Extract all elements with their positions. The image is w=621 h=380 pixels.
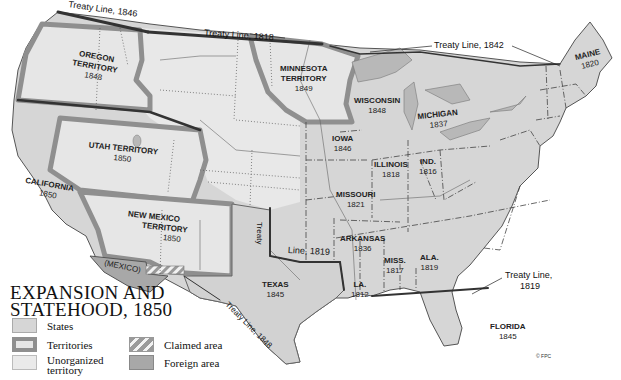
states-legend-label: States [47, 320, 73, 332]
states-swatch [12, 318, 37, 333]
arkansas-year: 1836 [340, 244, 385, 254]
wisconsin-name: WISCONSIN [354, 96, 400, 106]
label-mississippi: MISS. 1817 [384, 256, 406, 276]
label-minnesota-territory: MINNESOTA TERRITORY 1849 [280, 64, 327, 94]
ala-name: ALA. [420, 253, 439, 263]
territories-legend-label: Territories [47, 339, 93, 351]
texas-year: 1845 [262, 290, 289, 300]
label-wisconsin: WISCONSIN 1848 [354, 96, 400, 116]
ind-name: IND. [419, 157, 437, 167]
illinois-year: 1818 [374, 170, 408, 180]
miss-year: 1817 [384, 266, 406, 276]
foreign-swatch [129, 355, 154, 370]
label-iowa: IOWA 1846 [332, 134, 353, 154]
title-line-2: STATEHOOD, 1850 [10, 301, 172, 318]
wisconsin-year: 1848 [354, 106, 400, 116]
treaty-label-1842: Treaty Line, 1842 [434, 40, 504, 50]
unorganized-line2: territory [47, 364, 83, 376]
label-alabama: ALA. 1819 [420, 253, 439, 273]
label-louisiana: LA. 1812 [351, 280, 369, 300]
texas-name: TEXAS [262, 280, 289, 290]
claimed-area [146, 266, 184, 274]
florida-name: FLORIDA [490, 322, 526, 332]
label-illinois: ILLINOIS 1818 [374, 160, 408, 180]
florida-year: 1845 [490, 332, 526, 342]
territories-swatch [12, 337, 37, 352]
iowa-name: IOWA [332, 134, 353, 144]
la-year: 1812 [351, 290, 369, 300]
treaty-label-1819-horizontal: Line, 1819 [288, 245, 331, 257]
missouri-name: MISSOURI [336, 190, 376, 200]
unorganized-legend-label: Unorganized territory [47, 355, 104, 375]
minnesota-year: 1849 [280, 84, 327, 94]
legend-unorganized: Unorganized territory [12, 355, 104, 375]
ala-year: 1819 [420, 263, 439, 273]
treaty-label-1819-east-line1: Treaty Line, [505, 270, 552, 280]
label-texas: TEXAS 1845 [262, 280, 289, 300]
la-name: LA. [351, 280, 369, 290]
label-arkansas: ARKANSAS 1836 [340, 234, 385, 254]
claimed-swatch [129, 337, 154, 352]
minnesota-name: MINNESOTA [280, 64, 327, 74]
treaty-label-1819-vertical: Treaty [255, 222, 264, 244]
foreign-legend-label: Foreign area [164, 357, 219, 369]
legend-claimed: Claimed area [129, 337, 222, 352]
miss-name: MISS. [384, 256, 406, 266]
label-michigan: MICHIGAN 1837 [417, 108, 459, 132]
missouri-year: 1821 [336, 200, 376, 210]
label-missouri: MISSOURI 1821 [336, 190, 376, 210]
label-florida: FLORIDA 1845 [490, 322, 526, 342]
ind-year: 1816 [419, 167, 437, 177]
treaty-label-1819-east-line2: 1819 [520, 281, 540, 291]
illinois-name: ILLINOIS [374, 160, 408, 170]
arkansas-name: ARKANSAS [340, 234, 385, 244]
legend-foreign: Foreign area [129, 355, 219, 370]
label-indiana: IND. 1816 [419, 157, 437, 177]
copyright: © FPC [536, 353, 551, 359]
map-title: EXPANSION AND STATEHOOD, 1850 [10, 284, 172, 318]
minnesota-name-2: TERRITORY [280, 74, 327, 84]
legend-territories: Territories [12, 337, 93, 352]
iowa-year: 1846 [332, 144, 353, 154]
unorganized-swatch [12, 355, 37, 370]
claimed-legend-label: Claimed area [164, 339, 222, 351]
legend-states: States [12, 318, 73, 333]
